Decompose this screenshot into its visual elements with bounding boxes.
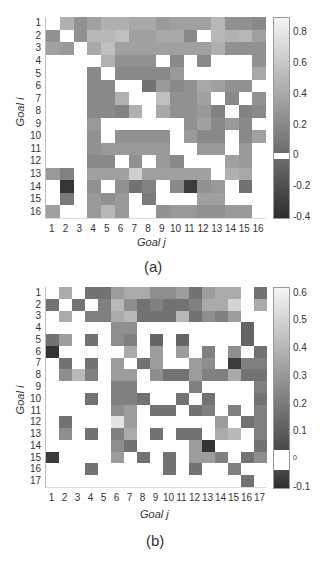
heatmap-cell (111, 416, 124, 428)
x-tick-label: 17 (249, 493, 270, 503)
heatmap-cell (189, 287, 202, 299)
heatmap-cell (85, 369, 98, 381)
heatmap-cell (228, 393, 241, 405)
heatmap-cell (150, 334, 163, 346)
heatmap-cell (163, 381, 176, 393)
heatmap-cell (202, 369, 215, 381)
heatmap-cell (189, 322, 202, 334)
heatmap-cell (124, 346, 137, 358)
y-tick-label: 5 (25, 335, 41, 345)
heatmap-cell (137, 393, 150, 405)
heatmap-cell (189, 416, 202, 428)
heatmap-cell (85, 299, 98, 311)
heatmap-cell (189, 381, 202, 393)
heatmap-cell (124, 405, 137, 417)
heatmap-cell (228, 475, 241, 487)
y-tick-label: 2 (25, 300, 41, 310)
heatmap-cell (111, 475, 124, 487)
colorbar-tick-label: -0.1 (293, 482, 310, 492)
heatmap-cell (72, 287, 85, 299)
heatmap-cell (72, 428, 85, 440)
heatmap-cell (98, 416, 111, 428)
heatmap-cell (254, 475, 267, 487)
heatmap-cell (254, 334, 267, 346)
heatmap-cell (46, 334, 59, 346)
heatmap-cell (46, 440, 59, 452)
y-tick-label: 8 (25, 370, 41, 380)
heatmap-cell (124, 381, 137, 393)
heatmap-cell (98, 393, 111, 405)
heatmap-cell (98, 428, 111, 440)
heatmap-cell (85, 393, 98, 405)
heatmap-cell (228, 428, 241, 440)
heatmap-cell (189, 393, 202, 405)
heatmap-cell (189, 463, 202, 475)
heatmap-cell (137, 287, 150, 299)
heatmap-cell (176, 322, 189, 334)
heatmap-cell (98, 322, 111, 334)
heatmap-cell (228, 405, 241, 417)
colorbar-tick-label: 0.4 (293, 343, 307, 353)
y-tick-label: 11 (25, 406, 41, 416)
heatmap-cell (124, 311, 137, 323)
heatmap-cell (46, 381, 59, 393)
heatmap-cell (85, 358, 98, 370)
heatmap-cell (111, 440, 124, 452)
heatmap-cell (85, 440, 98, 452)
heatmap-cell (163, 287, 176, 299)
heatmap-cell (72, 369, 85, 381)
heatmap-cell (59, 311, 72, 323)
heatmap-cell (215, 405, 228, 417)
y-tick-label: 3 (25, 311, 41, 321)
y-tick-label: 14 (25, 441, 41, 451)
heatmap-cell (85, 428, 98, 440)
heatmap-cell (72, 299, 85, 311)
heatmap-cell (111, 393, 124, 405)
heatmap-cell (228, 452, 241, 464)
colorbar-b (273, 287, 290, 489)
heatmap-cell (72, 393, 85, 405)
heatmap-cell (150, 475, 163, 487)
heatmap-cell (150, 346, 163, 358)
heatmap-cell (150, 322, 163, 334)
heatmap-cell (111, 452, 124, 464)
heatmap-cell (189, 440, 202, 452)
heatmap-cell (189, 299, 202, 311)
heatmap-cell (46, 428, 59, 440)
heatmap-cell (202, 299, 215, 311)
heatmap-cell (111, 346, 124, 358)
heatmap-cell (254, 393, 267, 405)
heatmap-cell (150, 440, 163, 452)
heatmap-cell (176, 369, 189, 381)
heatmap-cell (137, 452, 150, 464)
heatmap-cell (59, 358, 72, 370)
heatmap-cell (176, 416, 189, 428)
heatmap-cell (59, 393, 72, 405)
heatmap-cell (98, 440, 111, 452)
heatmap-cell (72, 381, 85, 393)
heatmap-cell (85, 322, 98, 334)
heatmap-cell (150, 405, 163, 417)
colorbar-tick-label: 0.2 (293, 399, 307, 409)
heatmap-cell (85, 475, 98, 487)
heatmap-cell (137, 334, 150, 346)
heatmap-cell (163, 322, 176, 334)
heatmap-cell (215, 334, 228, 346)
heatmap-cell (215, 463, 228, 475)
heatmap-cell (72, 346, 85, 358)
heatmap-cell (176, 287, 189, 299)
colorbar-tick-label: 0.1 (293, 426, 307, 436)
panel-b: 1234567891011121314151617 Goal i 1234567… (0, 0, 327, 563)
colorbar-tick-label: 0 (293, 454, 297, 461)
heatmap-cell (72, 475, 85, 487)
heatmap-cell (46, 452, 59, 464)
caption-b: (b) (146, 532, 164, 549)
heatmap-cell (137, 299, 150, 311)
heatmap-cell (124, 428, 137, 440)
heatmap-cell (46, 322, 59, 334)
heatmap-cell (202, 405, 215, 417)
heatmap-cell (46, 393, 59, 405)
heatmap-cell (85, 287, 98, 299)
heatmap-cell (137, 369, 150, 381)
y-tick-label: 1 (25, 288, 41, 298)
